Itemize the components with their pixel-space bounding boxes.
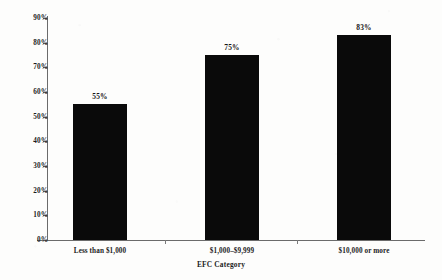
y-axis-tick-label: 70% (14, 63, 48, 71)
x-axis-category-label: $1,000–$9,999 (166, 247, 298, 256)
y-axis-tick-label: 50% (14, 113, 48, 121)
y-axis-tick-label: 30% (14, 162, 48, 170)
x-axis-tick (297, 240, 298, 244)
bar (73, 104, 127, 240)
y-axis-tick-label: 0% (14, 236, 48, 244)
y-axis-tick-label-row: 30% (0, 162, 48, 170)
bar-value-label: 55% (70, 92, 130, 101)
y-axis-tick-label-row: 20% (0, 187, 48, 195)
x-axis-title: EFC Category (0, 260, 442, 269)
y-axis-line (47, 16, 48, 241)
bar-value-label: 75% (202, 43, 262, 52)
y-axis-tick-label: 80% (14, 39, 48, 47)
y-axis-tick-label-row: 40% (0, 137, 48, 145)
x-axis-line (37, 240, 425, 241)
bar (337, 35, 391, 240)
bar-value-label: 83% (334, 23, 394, 32)
bar-chart: 0%10%20%30%40%50%60%70%80%90% 55%75%83% … (0, 0, 442, 280)
y-axis-tick-label-row: 50% (0, 113, 48, 121)
y-axis-tick-label: 10% (14, 211, 48, 219)
y-axis-tick-label-row: 80% (0, 39, 48, 47)
y-axis-tick-label-row: 10% (0, 211, 48, 219)
bar (205, 55, 259, 240)
x-axis-category-label: Less than $1,000 (34, 247, 166, 256)
y-axis-tick-label-row: 70% (0, 63, 48, 71)
y-axis-tick-label-row: 90% (0, 14, 48, 22)
y-axis-tick-label-row: 60% (0, 88, 48, 96)
y-axis-tick-label-row: 0% (0, 236, 48, 244)
x-axis-tick (165, 240, 166, 244)
y-axis-tick-label: 60% (14, 88, 48, 96)
x-axis-category-label: $10,000 or more (298, 247, 430, 256)
y-axis-tick-label: 40% (14, 137, 48, 145)
y-axis-tick-label: 90% (14, 14, 48, 22)
y-axis-tick-label: 20% (14, 187, 48, 195)
